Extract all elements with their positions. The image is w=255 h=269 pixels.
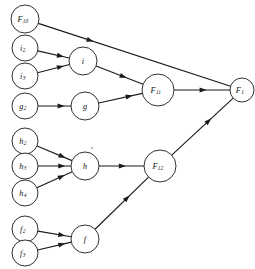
arrowhead-icon — [58, 164, 65, 169]
arrowhead-icon — [57, 65, 64, 70]
edge-F12-to-F1 — [172, 98, 233, 155]
edge-i-to-F11 — [96, 66, 143, 84]
edge-i3-to-i — [38, 65, 70, 73]
edge-h2-to-h — [37, 146, 72, 161]
node-f3[interactable]: f3 — [12, 240, 38, 266]
edge-h-to-F12 — [99, 164, 144, 169]
arrowhead-icon — [58, 243, 65, 248]
edge-F10-to-F1 — [38, 23, 230, 86]
node-F10[interactable]: F10 — [11, 5, 39, 33]
edge-f2-to-f — [38, 231, 71, 237]
stray-speck-mark — [91, 147, 93, 149]
arrowhead-icon — [58, 153, 65, 158]
graph-diagram: F10i2ii3F11F1g2gh2h3hh4F12f2ff3 — [0, 0, 255, 269]
edges-layer — [37, 23, 233, 250]
nodes-layer: F10i2ii3F11F1g2gh2h3hh4F12f2ff3 — [11, 5, 254, 266]
edge-h3-to-h — [38, 164, 71, 169]
edge-h4-to-h — [37, 172, 72, 188]
arrowhead-icon — [119, 164, 126, 169]
node-h2[interactable]: h2 — [12, 128, 38, 154]
node-g[interactable]: g — [71, 92, 99, 120]
arrowhead-icon — [86, 37, 93, 42]
node-F11[interactable]: F11 — [142, 74, 174, 106]
edge-i2-to-i — [38, 51, 70, 58]
arrowhead-icon — [119, 73, 126, 78]
node-h[interactable]: h — [71, 152, 99, 180]
edge-f-to-F12 — [95, 177, 149, 229]
node-F12[interactable]: F12 — [144, 150, 176, 182]
node-i[interactable]: i — [69, 47, 97, 75]
node-f[interactable]: f — [71, 225, 99, 253]
node-i2[interactable]: i2 — [12, 35, 38, 61]
arrowhead-icon — [58, 104, 65, 109]
arrowhead-icon — [200, 88, 207, 93]
node-h4[interactable]: h4 — [12, 180, 38, 206]
node-g2[interactable]: g2 — [12, 93, 38, 119]
node-f2[interactable]: f2 — [12, 216, 38, 242]
arrowhead-icon — [57, 175, 64, 180]
edge-F11-to-F1 — [174, 88, 230, 93]
node-h3[interactable]: h3 — [12, 153, 38, 179]
node-F1[interactable]: F1 — [230, 78, 254, 102]
edge-g2-to-g — [38, 104, 71, 109]
edge-f3-to-f — [38, 242, 72, 250]
node-label-g: g — [83, 102, 87, 111]
node-label-h: h — [83, 162, 87, 171]
node-i3[interactable]: i3 — [12, 63, 38, 89]
arrowhead-icon — [58, 232, 65, 237]
edge-g-to-F11 — [99, 93, 143, 103]
